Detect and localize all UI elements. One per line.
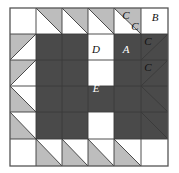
label-A: A bbox=[122, 43, 130, 55]
label-E: E bbox=[92, 82, 100, 94]
quilt-svg-canvas: ABCCCCDE bbox=[0, 0, 179, 173]
label-C-2: C bbox=[131, 20, 139, 32]
label-D: D bbox=[91, 43, 100, 55]
label-B: B bbox=[152, 11, 159, 23]
quilt-block-diagram: ABCCCCDE bbox=[0, 0, 179, 173]
label-C-3: C bbox=[144, 35, 152, 47]
label-C-4: C bbox=[144, 61, 152, 73]
label-C-1: C bbox=[122, 9, 130, 21]
